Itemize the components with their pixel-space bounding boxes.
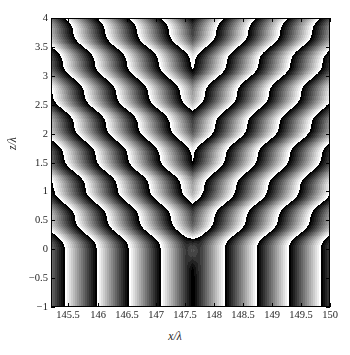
x-axis-tick-top bbox=[68, 18, 69, 22]
y-axis-tick-label: 0 bbox=[43, 244, 48, 255]
y-axis-tick-right bbox=[326, 220, 330, 221]
plot-area bbox=[51, 18, 330, 307]
y-axis-tick bbox=[51, 47, 55, 48]
x-axis-tick bbox=[185, 303, 186, 307]
x-axis-tick bbox=[330, 303, 331, 307]
y-axis-tick-label: 0.5 bbox=[35, 215, 48, 226]
x-axis-tick bbox=[127, 303, 128, 307]
x-axis-tick bbox=[214, 303, 215, 307]
y-axis-tick-label: 1 bbox=[43, 186, 48, 197]
x-axis-tick-top bbox=[272, 18, 273, 22]
y-axis-tick bbox=[51, 76, 55, 77]
y-axis-tick-right bbox=[326, 134, 330, 135]
y-axis-tick-right bbox=[326, 191, 330, 192]
y-axis-tick bbox=[51, 105, 55, 106]
x-axis-tick bbox=[272, 303, 273, 307]
y-axis-tick bbox=[51, 191, 55, 192]
figure-canvas: −1−0.500.511.522.533.54145.5146146.51471… bbox=[0, 0, 350, 355]
x-axis-tick-top bbox=[214, 18, 215, 22]
y-axis-tick bbox=[51, 18, 55, 19]
y-axis-tick-label: 2.5 bbox=[35, 100, 48, 111]
x-axis-tick bbox=[156, 303, 157, 307]
y-axis-tick bbox=[51, 163, 55, 164]
y-axis-tick-right bbox=[326, 278, 330, 279]
x-axis-tick-top bbox=[330, 18, 331, 22]
x-axis-tick bbox=[98, 303, 99, 307]
y-axis-tick-right bbox=[326, 76, 330, 77]
x-axis-title: x/λ bbox=[0, 330, 350, 342]
y-axis-tick-right bbox=[326, 47, 330, 48]
x-axis-tick-top bbox=[301, 18, 302, 22]
x-axis-tick bbox=[301, 303, 302, 307]
y-axis-tick-label: 3.5 bbox=[35, 42, 48, 53]
y-axis-tick-label: −0.5 bbox=[29, 273, 48, 284]
x-axis-tick-top bbox=[127, 18, 128, 22]
x-axis-tick-top bbox=[156, 18, 157, 22]
y-axis-tick bbox=[51, 134, 55, 135]
x-axis-tick-top bbox=[185, 18, 186, 22]
y-axis-tick-right bbox=[326, 163, 330, 164]
y-axis-tick-label: 4 bbox=[43, 13, 48, 24]
x-axis-tick bbox=[68, 303, 69, 307]
y-axis-title: z/λ bbox=[6, 137, 18, 150]
y-axis-tick-label: 1.5 bbox=[35, 158, 48, 169]
x-axis-tick-top bbox=[243, 18, 244, 22]
x-axis-tick-top bbox=[98, 18, 99, 22]
y-axis-tick-right bbox=[326, 307, 330, 308]
y-axis-tick-right bbox=[326, 105, 330, 106]
x-axis-tick-label: 150 bbox=[300, 310, 350, 321]
y-axis-tick-label: 3 bbox=[43, 71, 48, 82]
phase-heatmap bbox=[52, 19, 330, 307]
y-axis-tick bbox=[51, 249, 55, 250]
y-axis-tick bbox=[51, 220, 55, 221]
x-axis-tick bbox=[243, 303, 244, 307]
y-axis-tick-right bbox=[326, 249, 330, 250]
y-axis-tick bbox=[51, 278, 55, 279]
y-axis-tick bbox=[51, 307, 55, 308]
y-axis-tick-label: 2 bbox=[43, 129, 48, 140]
